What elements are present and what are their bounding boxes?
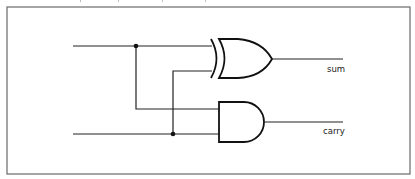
xor-gate-extra-curve [211, 39, 217, 78]
junction-a [134, 44, 139, 49]
input-b-branch [173, 71, 212, 134]
diagram-frame [7, 7, 410, 174]
sum-label: sum [327, 64, 345, 74]
input-a-branch [136, 46, 219, 109]
half-adder-diagram: sum carry [0, 0, 415, 179]
carry-label: carry [323, 126, 345, 136]
junction-b [171, 132, 176, 137]
cropped-caption-remnant [80, 0, 206, 2]
and-gate [219, 102, 264, 142]
xor-gate [211, 39, 272, 78]
